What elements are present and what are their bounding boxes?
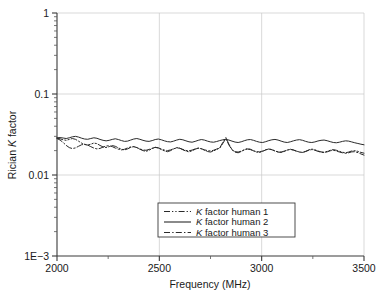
figure-container: 10.10.011E−3 2000250030003500 Rician K f… bbox=[0, 0, 390, 302]
x-tick-label: 3500 bbox=[352, 262, 376, 274]
x-tick-label: 2500 bbox=[148, 262, 172, 274]
y-tick-label: 0.01 bbox=[29, 169, 50, 181]
y-tick-label: 1E−3 bbox=[24, 250, 49, 262]
y-axis: 10.10.011E−3 bbox=[24, 7, 57, 262]
y-tick-label: 1 bbox=[43, 7, 49, 19]
chart-svg: 10.10.011E−3 2000250030003500 Rician K f… bbox=[0, 0, 390, 302]
x-tick-label: 2000 bbox=[45, 262, 69, 274]
y-tick-label-group: 10.10.011E−3 bbox=[24, 7, 49, 262]
legend-label-3: K factor human 3 bbox=[196, 227, 268, 238]
x-axis-title: Frequency (MHz) bbox=[169, 278, 250, 290]
data-series-group bbox=[57, 136, 364, 155]
legend-label-1: K factor human 1 bbox=[196, 206, 268, 217]
x-tick-label: 3000 bbox=[250, 262, 274, 274]
x-axis: 2000250030003500 bbox=[45, 256, 376, 274]
y-tick-group bbox=[52, 13, 57, 256]
legend-label-2: K factor human 2 bbox=[196, 216, 268, 227]
y-axis-title-text: Rician K factor bbox=[6, 110, 18, 179]
y-axis-title: Rician K factor bbox=[6, 110, 18, 179]
y-tick-label: 0.1 bbox=[34, 88, 49, 100]
x-tick-group bbox=[57, 256, 364, 261]
legend[interactable]: K factor human 1K factor human 2K factor… bbox=[158, 203, 295, 238]
series-path-2 bbox=[57, 136, 364, 144]
x-tick-label-group: 2000250030003500 bbox=[45, 262, 376, 274]
x-axis-title-text: Frequency (MHz) bbox=[169, 278, 250, 290]
